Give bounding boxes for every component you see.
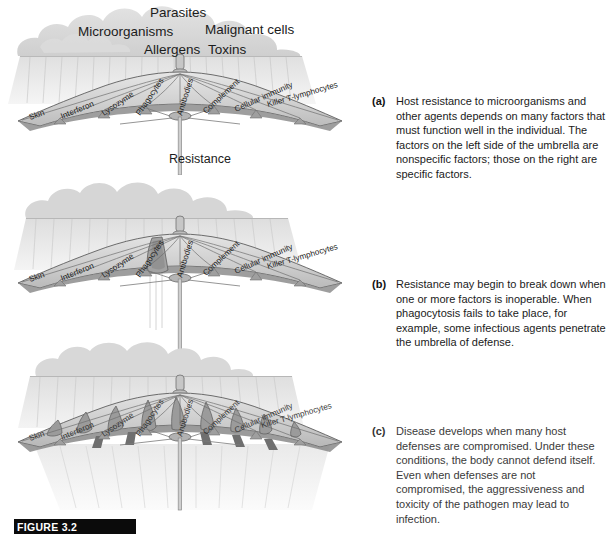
- rib-label-antibodies: Antibodies: [175, 239, 195, 278]
- rib-label-antibodies: Antibodies: [175, 77, 195, 116]
- caption-a-text: Host resistance to microorganisms and ot…: [396, 94, 606, 182]
- rib-label-skin: Skin: [28, 270, 46, 284]
- caption-b-letter: (b): [372, 277, 389, 350]
- figure-number-label: FIGURE 3.2: [14, 521, 77, 533]
- caption-column: (a) Host resistance to microorganisms an…: [372, 0, 606, 538]
- resistance-label: Resistance: [169, 152, 231, 166]
- caption-c: (c) Disease develops when many host defe…: [372, 424, 606, 526]
- illustration-column: Parasites Microorganisms Malignant cells…: [0, 0, 360, 538]
- rib-label-phagocytes: Phagocytes: [134, 239, 165, 280]
- rib-label-lysozyme: Lysozyme: [100, 252, 136, 280]
- rib-label-interferon: Interferon: [59, 420, 95, 442]
- figure-3-2: Parasites Microorganisms Malignant cells…: [0, 0, 606, 538]
- rib-label-overlay-c: Skin Interferon Lysozyme Phagocytes Anti…: [0, 340, 360, 515]
- figure-number-bar: FIGURE 3.2: [14, 519, 136, 534]
- rib-label-skin: Skin: [28, 108, 46, 122]
- rib-label-phagocytes: Phagocytes: [134, 77, 165, 118]
- rib-label-interferon: Interferon: [59, 99, 95, 121]
- caption-a: (a) Host resistance to microorganisms an…: [372, 94, 606, 182]
- caption-c-text: Disease develops when many host defenses…: [396, 424, 606, 526]
- rib-label-skin: Skin: [28, 429, 46, 443]
- rib-label-phagocytes: Phagocytes: [134, 398, 165, 439]
- caption-b: (b) Resistance may begin to break down w…: [372, 277, 606, 350]
- rib-label-lysozyme: Lysozyme: [100, 411, 136, 439]
- rib-label-lysozyme: Lysozyme: [100, 90, 136, 118]
- caption-b-text: Resistance may begin to break down when …: [396, 277, 606, 350]
- caption-a-letter: (a): [372, 94, 389, 182]
- rib-label-overlay-a: Skin Interferon Lysozyme Phagocytes Anti…: [0, 0, 360, 175]
- caption-c-letter: (c): [372, 424, 389, 526]
- rib-label-overlay-b: Skin Interferon Lysozyme Phagocytes Anti…: [0, 178, 360, 353]
- umbrella-panel-a: Parasites Microorganisms Malignant cells…: [0, 0, 360, 175]
- rib-label-antibodies: Antibodies: [175, 398, 195, 437]
- umbrella-panel-b: Skin Interferon Lysozyme Phagocytes Anti…: [0, 178, 360, 353]
- umbrella-panel-c: Skin Interferon Lysozyme Phagocytes Anti…: [0, 340, 360, 515]
- rib-label-interferon: Interferon: [59, 261, 95, 283]
